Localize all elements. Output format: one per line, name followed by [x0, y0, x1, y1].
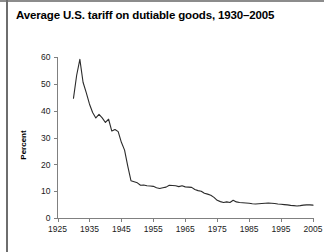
x-tick-label: 1995: [272, 224, 291, 234]
y-tick-label: 30: [41, 133, 51, 143]
x-tick-label: 1965: [176, 224, 195, 234]
x-tick-label: 1955: [144, 224, 163, 234]
x-tick-label: 1975: [208, 224, 227, 234]
y-tick-group: 0102030405060: [41, 52, 57, 223]
y-axis-label: Percent: [19, 130, 28, 160]
x-tick-label: 2005: [304, 224, 323, 234]
y-tick-label: 50: [41, 79, 51, 89]
y-tick-label: 0: [46, 213, 51, 223]
chart-figure: Average U.S. tariff on dutiable goods, 1…: [0, 0, 324, 252]
y-tick-label: 10: [41, 186, 51, 196]
x-tick-group: 192519351945195519651975198519952005: [48, 218, 323, 234]
x-tick-label: 1925: [48, 224, 67, 234]
x-tick-label: 1935: [80, 224, 99, 234]
y-tick-label: 20: [41, 160, 51, 170]
x-tick-label: 1985: [240, 224, 259, 234]
tariff-series-line: [73, 59, 313, 206]
y-tick-label: 60: [41, 52, 51, 62]
chart-plot-area: 0102030405060 19251935194519551965197519…: [0, 0, 324, 252]
y-tick-label: 40: [41, 106, 51, 116]
x-tick-label: 1945: [112, 224, 131, 234]
data-series-group: [73, 59, 313, 206]
